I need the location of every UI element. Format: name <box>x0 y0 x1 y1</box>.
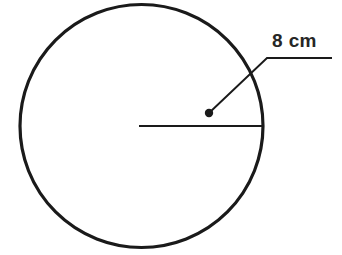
leader-endpoint-dot-icon <box>205 109 213 117</box>
radius-measure-label: 8 cm <box>272 31 317 50</box>
circle-radius-diagram: 8 cm <box>0 0 342 255</box>
leader-line <box>209 58 332 113</box>
